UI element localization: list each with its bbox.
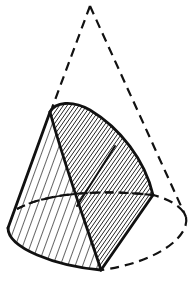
cone-section-figure (0, 0, 194, 283)
cone-diagram (0, 0, 194, 283)
